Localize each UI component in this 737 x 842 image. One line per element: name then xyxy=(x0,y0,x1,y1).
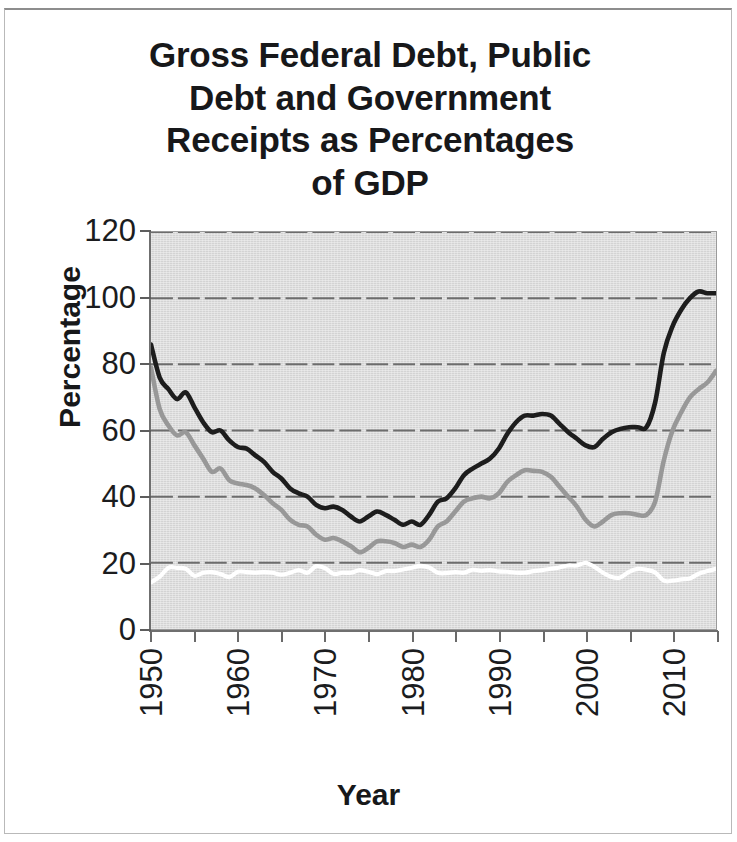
x-tick-label: 2000 xyxy=(570,648,606,717)
x-tick-label: 1970 xyxy=(308,648,344,717)
x-tick-mark xyxy=(150,631,152,642)
x-axis-title: Year xyxy=(0,778,737,812)
y-tick-mark xyxy=(140,430,151,432)
x-tick-mark xyxy=(237,631,239,642)
x-tick-mark xyxy=(586,631,588,642)
x-tick-mark xyxy=(412,631,414,642)
x-tick-mark xyxy=(368,631,370,642)
series-line-gross-federal-debt xyxy=(151,291,716,525)
plot-canvas xyxy=(151,232,716,629)
y-tick-mark xyxy=(140,363,151,365)
x-tick-mark xyxy=(630,631,632,642)
x-tick-label: 1980 xyxy=(396,648,432,717)
data-series-layer xyxy=(151,291,716,582)
x-tick-mark xyxy=(194,631,196,642)
y-axis-title: Percentage xyxy=(53,227,87,467)
x-tick-mark xyxy=(543,631,545,642)
x-tick-label: 1990 xyxy=(483,648,519,717)
page-title: Gross Federal Debt, Public Debt and Gove… xyxy=(60,34,680,205)
x-tick-label: 1950 xyxy=(134,648,170,717)
plot-area xyxy=(150,231,717,630)
y-tick-label: 20 xyxy=(16,546,136,582)
x-tick-mark xyxy=(455,631,457,642)
chart-page: Gross Federal Debt, Public Debt and Gove… xyxy=(0,0,737,842)
x-tick-mark xyxy=(673,631,675,642)
x-tick-label: 2010 xyxy=(657,648,693,717)
y-tick-mark xyxy=(140,496,151,498)
series-line-public-debt xyxy=(151,368,716,553)
y-tick-mark xyxy=(140,230,151,232)
x-tick-label: 1960 xyxy=(221,648,257,717)
series-line-government-receipts xyxy=(151,563,716,583)
y-tick-mark xyxy=(140,297,151,299)
x-tick-mark xyxy=(499,631,501,642)
x-tick-mark xyxy=(717,631,719,642)
x-axis xyxy=(149,630,718,632)
y-tick-label: 40 xyxy=(16,479,136,515)
x-tick-mark xyxy=(324,631,326,642)
y-tick-label: 0 xyxy=(16,612,136,648)
x-tick-mark xyxy=(281,631,283,642)
y-tick-mark xyxy=(140,563,151,565)
